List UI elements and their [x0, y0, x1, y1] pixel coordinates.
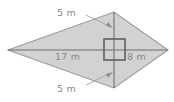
kite-diagram-svg — [0, 0, 174, 102]
label-bottom-side-length: 5 m — [57, 84, 76, 94]
label-right-segment-length: 8 m — [127, 52, 146, 62]
kite-figure: 5 m 5 m 17 m 8 m — [0, 0, 174, 102]
label-top-side-length: 5 m — [57, 8, 76, 18]
label-horizontal-diagonal-length: 17 m — [55, 52, 80, 62]
